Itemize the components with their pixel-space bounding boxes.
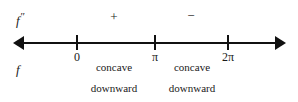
function-label-base: f	[16, 62, 20, 77]
second-derivative-prime-icon: ″	[20, 10, 25, 22]
sign-chart-figure: f″ + − 0 π 2π f concave downward concave…	[0, 0, 298, 102]
tick-mark-2pi	[227, 35, 229, 50]
right-arrowhead-icon	[275, 36, 286, 50]
second-derivative-label: f″	[16, 11, 25, 27]
left-arrowhead-icon	[13, 36, 24, 50]
concavity-first-line2: downward	[69, 83, 159, 94]
concavity-second-line1: concave	[147, 62, 237, 73]
sign-positive: +	[102, 10, 126, 23]
concavity-second-line2: downward	[147, 83, 237, 94]
tick-mark-pi	[154, 35, 156, 50]
function-label: f	[16, 63, 20, 76]
sign-negative: −	[179, 9, 203, 22]
tick-mark-0	[76, 35, 78, 50]
number-line-axis	[20, 42, 279, 44]
concavity-first-line1: concave	[69, 62, 159, 73]
